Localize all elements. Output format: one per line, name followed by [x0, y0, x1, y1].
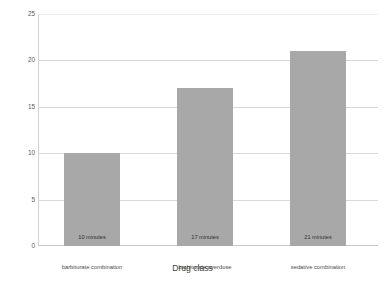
y-tick-label-5: 5 — [5, 196, 35, 203]
y-tick-label-0: 0 — [5, 242, 35, 249]
gridline-25 — [38, 14, 378, 15]
plot-area: 25 20 15 10 5 0 10 minutes 17 minutes 21… — [38, 14, 378, 246]
y-tick-label-20: 20 — [5, 56, 35, 63]
y-tick-label-25: 25 — [5, 10, 35, 17]
y-tick-label-10: 10 — [5, 149, 35, 156]
bar-sedative-combination: 21 minutes — [290, 51, 346, 246]
bar-value-label-2: 21 minutes — [290, 234, 346, 240]
bar-barbiturate-overdose: 17 minutes — [177, 88, 233, 246]
y-tick-label-15: 15 — [5, 103, 35, 110]
x-axis-title: Drug class — [0, 263, 385, 273]
bar-value-label-1: 17 minutes — [177, 234, 233, 240]
bar-value-label-0: 10 minutes — [64, 234, 120, 240]
bar-barbiturate-combination: 10 minutes — [64, 153, 120, 246]
bar-chart-figure: Average time between injection and death… — [0, 0, 385, 285]
